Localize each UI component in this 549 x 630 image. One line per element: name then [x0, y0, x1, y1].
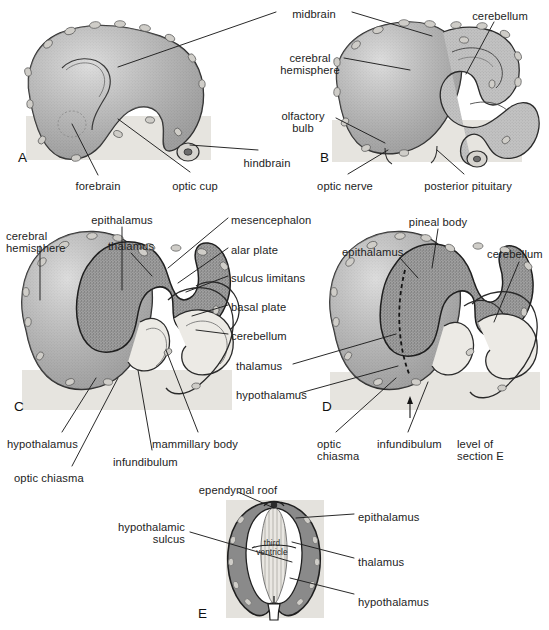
label-olfactory-bulb: olfactory bulb [281, 110, 324, 135]
label-cerebellum-c: cerebellum [231, 330, 287, 342]
label-cerebral-hemisphere-b: cerebral hemisphere [280, 52, 339, 77]
label-optic-chiasma-d: optic chiasma [317, 438, 359, 463]
label-third-ventricle: third ventricle [256, 540, 287, 557]
label-basal-plate: basal plate [231, 301, 286, 313]
label-mammillary-body: mammillary body [152, 438, 238, 450]
label-hindbrain: hindbrain [244, 157, 291, 169]
label-cerebral-hemisphere-c: cerebral hemisphere [6, 230, 65, 255]
figure-illustration [0, 0, 549, 630]
label-thalamus-c: thalamus [108, 240, 154, 252]
panel-letter-e: E [198, 606, 207, 621]
label-hypothalamus-e: hypothalamus [358, 596, 429, 608]
label-cerebellum-b: cerebellum [472, 10, 528, 22]
label-thalamus-e: thalamus [358, 556, 404, 568]
label-optic-cup: optic cup [172, 180, 218, 192]
label-hypothalamic-sulcus: hypothalamic sulcus [118, 521, 185, 546]
anatomy-figure: midbrain cerebellum cerebral hemisphere … [0, 0, 549, 630]
label-hypothalamus-c: hypothalamus [7, 438, 78, 450]
label-infundibulum-d: infundibulum [377, 438, 442, 450]
label-thalamus-d: thalamus [236, 360, 282, 372]
label-forebrain: forebrain [75, 180, 120, 192]
panel-letter-c: C [14, 399, 24, 414]
label-mesencephalon: mesencephalon [231, 214, 311, 226]
panel-letter-d: D [322, 399, 332, 414]
label-level-of-section-e: level of section E [457, 438, 504, 463]
panel-e-illustration [226, 500, 324, 620]
label-ependymal-roof: ependymal roof [199, 484, 278, 496]
panel-letter-b: B [320, 150, 329, 165]
label-alar-plate: alar plate [231, 244, 278, 256]
label-infundibulum-c: infundibulum [113, 456, 178, 468]
panel-c-illustration [22, 231, 239, 410]
label-hypothalamus-d: hypothalamus [236, 389, 307, 401]
label-epithalamus-d: epithalamus [342, 246, 403, 258]
label-sulcus-limitans: sulcus limitans [231, 272, 305, 284]
label-posterior-pituitary: posterior pituitary [424, 180, 512, 192]
label-optic-chiasma-c: optic chiasma [14, 472, 84, 484]
label-pineal-body: pineal body [409, 216, 467, 228]
label-epithalamus-c: epithalamus [91, 214, 152, 226]
label-cerebellum-d: cerebellum [487, 248, 543, 260]
label-optic-nerve: optic nerve [317, 180, 373, 192]
label-midbrain: midbrain [292, 8, 336, 20]
panel-a-illustration [24, 21, 211, 162]
panel-letter-a: A [18, 150, 27, 165]
label-epithalamus-e: epithalamus [358, 511, 419, 523]
panel-b-illustration [332, 20, 539, 167]
